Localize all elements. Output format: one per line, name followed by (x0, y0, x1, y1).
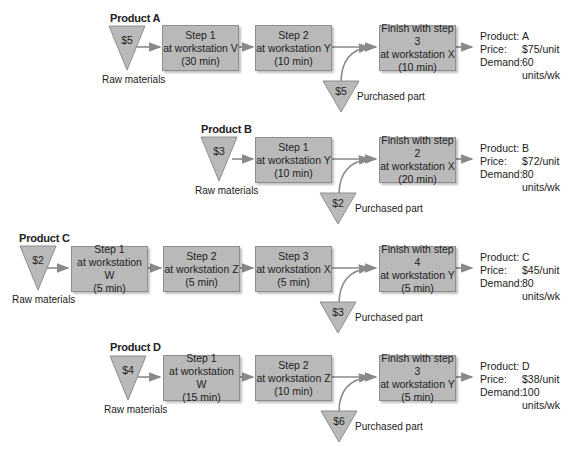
finish-step-box: Finish with step 2 at workstation X (20 … (379, 137, 456, 183)
step-title: Step 1 (278, 141, 308, 154)
product-info: Product:B Price:$72/unit Demand:80 units… (480, 142, 573, 194)
step-title: Finish with step 3 (380, 22, 455, 48)
step-time: (5 min) (185, 276, 218, 289)
product-info: Product:A Price:$75/unit Demand:60 units… (480, 30, 573, 82)
price-key: Price: (480, 155, 522, 168)
purchased-part-triangle-icon: $2 (319, 192, 357, 225)
step-title: Step 1 (185, 29, 215, 42)
purchased-part-label: Purchased part (355, 421, 423, 432)
purchased-part-label: Purchased part (357, 91, 425, 102)
step-time: (30 min) (181, 55, 220, 68)
purchased-part-triangle-icon: $6 (320, 410, 358, 443)
finish-step-box: Finish with step 3 at workstation Y (5 m… (379, 355, 456, 401)
demand-key: Demand: (480, 386, 522, 412)
step-workstation: at workstation X (256, 263, 331, 276)
step-time: (5 min) (93, 282, 126, 295)
price-key: Price: (480, 373, 522, 386)
process-step-box: Step 2 at workstation Z (10 min) (255, 355, 332, 401)
product-key: Product: (480, 142, 522, 155)
price-key: Price: (480, 43, 522, 56)
step-time: (10 min) (274, 55, 313, 68)
raw-materials-triangle-icon: $5 (108, 25, 146, 71)
step-workstation: at workstation Y (256, 154, 331, 167)
price-value: $38/unit (522, 373, 559, 386)
product-value: A (522, 30, 529, 43)
raw-materials-triangle-icon: $3 (200, 136, 238, 182)
product-key: Product: (480, 251, 522, 264)
raw-cost: $3 (200, 145, 238, 157)
step-time: (5 min) (401, 391, 434, 404)
step-time: (5 min) (277, 276, 310, 289)
process-step-box: Step 1 at workstation W (5 min) (71, 246, 148, 292)
step-title: Finish with step 3 (380, 352, 455, 378)
demand-value: 100 units/wk (522, 386, 573, 412)
product-a-title: Product A (110, 12, 160, 24)
process-step-box: Step 2 at workstation Z (5 min) (163, 246, 240, 292)
step-title: Step 1 (94, 243, 124, 256)
product-info: Product:C Price:$45/unit Demand:80 units… (480, 251, 573, 303)
process-step-box: Step 1 at workstation Y (10 min) (255, 137, 332, 183)
step-title: Step 1 (186, 352, 216, 365)
price-key: Price: (480, 264, 522, 277)
process-step-box: Step 2 at workstation Y (10 min) (255, 25, 332, 71)
raw-cost: $2 (19, 254, 57, 266)
raw-materials-triangle-icon: $4 (109, 355, 147, 401)
demand-key: Demand: (480, 168, 522, 194)
finish-step-box: Finish with step 3 at workstation X (10 … (379, 25, 456, 71)
step-time: (10 min) (274, 167, 313, 180)
raw-materials-label: Raw materials (102, 74, 165, 85)
process-step-box: Step 1 at workstation V (30 min) (162, 25, 239, 71)
process-step-box: Step 1 at workstation W (15 min) (163, 355, 240, 401)
price-value: $75/unit (522, 43, 559, 56)
step-workstation: at workstation V (163, 42, 238, 55)
step-workstation: at workstation X (380, 48, 455, 61)
purchased-cost: $5 (322, 85, 360, 97)
step-title: Finish with step 4 (380, 243, 455, 269)
price-value: $45/unit (522, 264, 559, 277)
raw-materials-label: Raw materials (104, 404, 167, 415)
purchased-cost: $3 (319, 306, 357, 318)
step-title: Finish with step 2 (380, 134, 455, 160)
step-title: Step 2 (278, 359, 308, 372)
step-workstation: at workstation Z (164, 263, 238, 276)
step-workstation: at workstation W (164, 365, 239, 391)
raw-cost: $5 (108, 34, 146, 46)
purchased-part-triangle-icon: $5 (322, 80, 360, 113)
demand-value: 80 units/wk (522, 277, 573, 303)
product-value: B (522, 142, 529, 155)
raw-cost: $4 (109, 364, 147, 376)
step-title: Step 2 (186, 250, 216, 263)
raw-materials-triangle-icon: $2 (19, 245, 57, 291)
step-time: (5 min) (401, 282, 434, 295)
step-time: (10 min) (274, 385, 313, 398)
raw-materials-label: Raw materials (12, 294, 75, 305)
product-b-title: Product B (201, 123, 252, 135)
purchased-part-label: Purchased part (355, 203, 423, 214)
demand-value: 80 units/wk (522, 168, 573, 194)
demand-key: Demand: (480, 56, 522, 82)
demand-key: Demand: (480, 277, 522, 303)
raw-materials-label: Raw materials (195, 185, 258, 196)
product-key: Product: (480, 360, 522, 373)
purchased-part-label: Purchased part (355, 312, 423, 323)
product-key: Product: (480, 30, 522, 43)
step-workstation: at workstation Y (380, 378, 455, 391)
step-time: (15 min) (182, 391, 221, 404)
product-value: C (522, 251, 530, 264)
step-workstation: at workstation X (380, 160, 455, 173)
process-step-box: Step 3 at workstation X (5 min) (255, 246, 332, 292)
step-time: (20 min) (398, 173, 437, 186)
price-value: $72/unit (522, 155, 559, 168)
step-title: Step 3 (278, 250, 308, 263)
product-info: Product:D Price:$38/unit Demand:100 unit… (480, 360, 573, 412)
purchased-part-triangle-icon: $3 (319, 301, 357, 334)
step-workstation: at workstation W (72, 256, 147, 282)
step-time: (10 min) (398, 61, 437, 74)
purchased-cost: $6 (320, 415, 358, 427)
product-d-title: Product D (110, 341, 161, 353)
purchased-cost: $2 (319, 197, 357, 209)
finish-step-box: Finish with step 4 at workstation Y (5 m… (379, 246, 456, 292)
step-workstation: at workstation Y (256, 42, 331, 55)
step-workstation: at workstation Y (380, 269, 455, 282)
demand-value: 60 units/wk (522, 56, 573, 82)
